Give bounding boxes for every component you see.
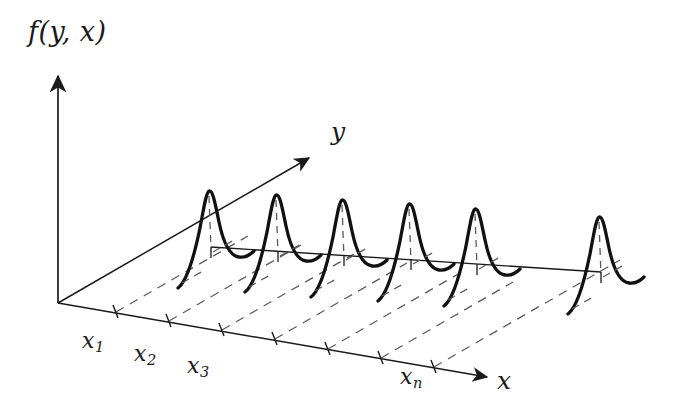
vertical-axis-label: f(y, x)	[28, 18, 107, 45]
gaussian-curve-4	[378, 204, 454, 301]
x-tick-label-x1: x1	[82, 330, 104, 355]
x-tick-label-x3-base: x	[187, 353, 199, 378]
x-tick-label-xn-sub: n	[412, 375, 422, 391]
x-tick-label-x2-sub: 2	[146, 352, 156, 368]
gaussian-curve-3	[311, 200, 387, 297]
depth-axis-label-y: y	[331, 119, 345, 144]
x-tick-label-x2: x2	[134, 343, 156, 368]
x-tick-label-x3: x3	[187, 355, 209, 380]
x-tick-label-x2-base: x	[134, 341, 146, 366]
x-tick-label-x1-base: x	[82, 328, 94, 353]
horizontal-axis-x	[58, 303, 487, 377]
x-tick-label-x3-sub: 3	[199, 364, 209, 380]
gaussian-curve-2	[245, 195, 321, 292]
x-tick-label-xn: xn	[400, 366, 422, 391]
gaussian-curve-6	[568, 217, 644, 314]
x-tick-label-xn-base: x	[400, 364, 412, 389]
baseline	[211, 247, 601, 283]
horizontal-axis-label-x: x	[497, 368, 511, 393]
x-tick-label-x1-sub: 1	[94, 339, 104, 355]
diagram-svg	[0, 0, 689, 420]
depth-guide-lines	[116, 236, 620, 367]
figure-canvas: f(y, x) y x x1 x2 x3 xn	[0, 0, 689, 420]
foot-tick-marks	[182, 240, 624, 309]
gaussian-curve-5	[444, 209, 520, 306]
